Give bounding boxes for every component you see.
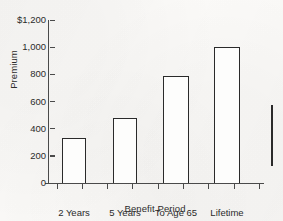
x-axis-tick-mark [82,183,83,189]
x-axis-category-label-5-years: 5 Years [109,207,141,218]
y-axis-tick-mark [50,101,55,102]
y-axis-tick-mark [50,47,55,48]
y-axis-tick-label: 200 [4,150,46,162]
y-axis-tick-label: 600 [4,96,46,108]
y-axis-tick-mark [50,155,55,156]
y-axis-tick-800: 800 [2,68,54,80]
x-axis-tick-mark [57,183,58,189]
y-axis-tick-400: 400 [2,123,54,135]
y-axis-tick-mark [50,74,55,75]
x-axis-tick-mark [158,183,159,189]
y-axis-tick-mark [50,20,55,21]
y-axis-tick-label: 0 [4,177,46,189]
y-axis-tick-0: 0 [2,177,54,189]
bar-2-years [62,138,86,183]
y-axis-tick-200: 200 [2,150,54,162]
bar-5-years [113,118,137,183]
y-axis-tick-mark [50,128,55,129]
y-axis-tick-label: 800 [4,68,46,80]
x-axis-tick-mark [208,183,209,189]
x-axis-tick-mark [132,183,133,189]
x-axis-tick-mark [259,183,260,189]
x-axis-tick-mark [183,183,184,189]
x-axis-tick-mark [107,183,108,189]
y-axis-tick-1200: $1,200 [2,14,54,26]
x-axis-category-label-to-age-65: To Age 65 [155,207,197,218]
bar-chart-figure: Premium Benefit Period $1,200 1,000 800 … [0,0,283,221]
y-axis-tick-label: 400 [4,123,46,135]
adjacent-figure-bar-fragment [271,105,273,166]
y-axis-tick-label: 1,000 [4,41,46,53]
bar-to-age-65 [163,76,189,183]
x-axis-tick-mark [234,183,235,189]
y-axis-tick-600: 600 [2,96,54,108]
y-axis-tick-1000: 1,000 [2,41,54,53]
bar-lifetime [214,47,240,183]
x-axis-category-label-lifetime: Lifetime [210,207,243,218]
x-axis-category-label-2-years: 2 Years [58,207,90,218]
y-axis-tick-label: $1,200 [4,14,46,26]
x-axis-line [45,183,264,184]
plot-area: $1,200 1,000 800 600 400 200 0 [48,20,260,183]
